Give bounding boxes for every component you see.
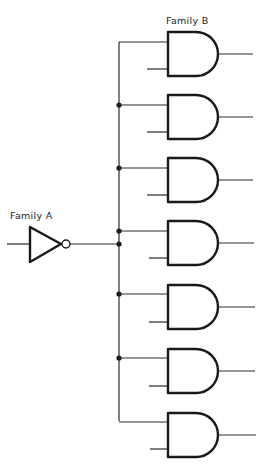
and-gate-icon — [168, 95, 218, 139]
inverter-bubble-icon — [62, 240, 70, 248]
and-gate-icon — [168, 413, 218, 457]
and-gate-icon — [168, 32, 218, 76]
and-gate-icon — [168, 221, 218, 265]
inverter-triangle-icon — [30, 227, 61, 262]
and-gate-5 — [119, 285, 255, 329]
inverter-gate — [7, 227, 119, 262]
and-gate-4 — [119, 221, 254, 265]
family-b-label: Family B — [166, 15, 209, 26]
junction-dot — [116, 241, 121, 246]
and-gate-7 — [119, 413, 256, 457]
fanout-diagram: Family B Family A — [0, 0, 273, 466]
and-gate-icon — [168, 158, 218, 202]
and-gate-icon — [168, 285, 218, 329]
and-gate-6 — [119, 349, 255, 393]
and-gate-3 — [119, 158, 253, 202]
and-gate-1 — [119, 32, 253, 76]
and-gate-2 — [119, 95, 253, 139]
and-gate-icon — [168, 349, 218, 393]
family-a-label: Family A — [10, 210, 53, 221]
